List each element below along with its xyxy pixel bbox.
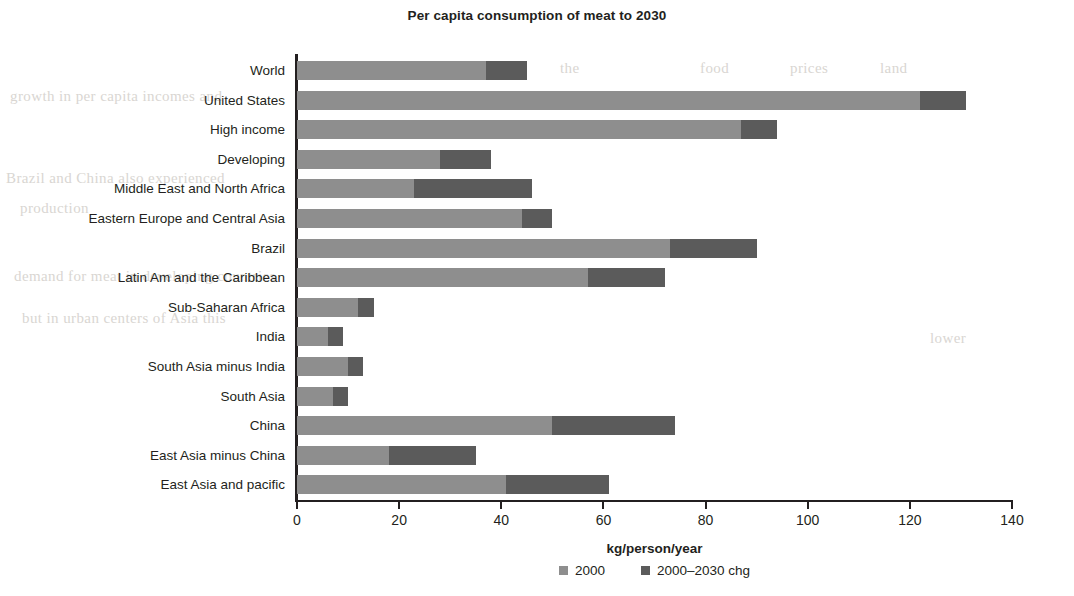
bar-segment-2000	[297, 416, 552, 435]
category-label: Brazil	[0, 239, 285, 258]
bar-segment-chg	[440, 150, 491, 169]
bar-segment-chg	[486, 61, 527, 80]
x-axis-tick-label: 20	[369, 512, 429, 528]
category-label: Eastern Europe and Central Asia	[0, 209, 285, 228]
bar-row: Brazil	[297, 234, 1012, 264]
category-label: High income	[0, 120, 285, 139]
bar-segment-2000	[297, 298, 358, 317]
legend-swatch-2000	[559, 566, 568, 575]
legend-item-2000: 2000	[559, 563, 605, 578]
category-label: South Asia minus India	[0, 357, 285, 376]
category-label: China	[0, 416, 285, 435]
x-axis-tick	[398, 500, 400, 509]
bar-row: Developing	[297, 145, 1012, 175]
bar-segment-chg	[333, 387, 348, 406]
chart-legend: 2000 2000–2030 chg	[297, 563, 1012, 578]
bar-segment-2000	[297, 150, 440, 169]
bar-segment-2000	[297, 209, 522, 228]
legend-label-2000: 2000	[575, 563, 605, 578]
x-axis-tick-label: 40	[471, 512, 531, 528]
bar-segment-chg	[522, 209, 553, 228]
category-label: East Asia minus China	[0, 446, 285, 465]
chart-title: Per capita consumption of meat to 2030	[0, 8, 1074, 23]
category-label: India	[0, 327, 285, 346]
bar-segment-chg	[348, 357, 363, 376]
x-axis-tick-label: 100	[778, 512, 838, 528]
legend-item-chg: 2000–2030 chg	[641, 563, 750, 578]
bar-segment-chg	[552, 416, 675, 435]
bar-segment-2000	[297, 91, 920, 110]
bar-segment-2000	[297, 239, 670, 258]
bar-segment-chg	[670, 239, 757, 258]
category-label: Sub-Saharan Africa	[0, 298, 285, 317]
x-axis-tick-label: 120	[880, 512, 940, 528]
bar-row: Sub-Saharan Africa	[297, 293, 1012, 323]
bar-row: High income	[297, 115, 1012, 145]
x-axis-tick-label: 140	[982, 512, 1042, 528]
bar-segment-chg	[358, 298, 373, 317]
category-label: Latin Am and the Caribbean	[0, 268, 285, 287]
bar-segment-chg	[414, 179, 531, 198]
x-axis-tick-label: 0	[267, 512, 327, 528]
x-axis-tick	[705, 500, 707, 509]
bar-segment-chg	[920, 91, 966, 110]
x-axis-tick-label: 80	[676, 512, 736, 528]
x-axis-tick	[296, 500, 298, 509]
bar-row: South Asia minus India	[297, 352, 1012, 382]
bar-row: Middle East and North Africa	[297, 174, 1012, 204]
bar-segment-2000	[297, 120, 741, 139]
bar-segment-chg	[506, 475, 608, 494]
bar-segment-2000	[297, 475, 506, 494]
x-axis-tick	[500, 500, 502, 509]
bar-row: United States	[297, 86, 1012, 116]
bar-segment-2000	[297, 446, 389, 465]
bar-segment-2000	[297, 268, 588, 287]
bar-segment-2000	[297, 179, 414, 198]
bar-row: India	[297, 322, 1012, 352]
bar-row: Eastern Europe and Central Asia	[297, 204, 1012, 234]
legend-swatch-chg	[641, 566, 650, 575]
bar-segment-chg	[328, 327, 343, 346]
x-axis-tick-label: 60	[573, 512, 633, 528]
bar-chart: Per capita consumption of meat to 2030 W…	[0, 0, 1074, 596]
x-axis-tick	[909, 500, 911, 509]
x-axis-tick	[1011, 500, 1013, 509]
bar-segment-chg	[389, 446, 476, 465]
category-label: South Asia	[0, 387, 285, 406]
bar-segment-2000	[297, 357, 348, 376]
bar-segment-2000	[297, 327, 328, 346]
legend-label-chg: 2000–2030 chg	[657, 563, 750, 578]
bar-row: East Asia minus China	[297, 441, 1012, 471]
bar-row: World	[297, 56, 1012, 86]
x-axis-tick	[602, 500, 604, 509]
bar-row: China	[297, 411, 1012, 441]
bar-segment-chg	[741, 120, 777, 139]
bar-row: East Asia and pacific	[297, 470, 1012, 500]
bar-row: South Asia	[297, 382, 1012, 412]
bar-segment-2000	[297, 61, 486, 80]
x-axis-line	[297, 500, 1013, 502]
x-axis-tick	[807, 500, 809, 509]
category-label: East Asia and pacific	[0, 475, 285, 494]
bar-row: Latin Am and the Caribbean	[297, 263, 1012, 293]
category-label: Middle East and North Africa	[0, 179, 285, 198]
plot-area: WorldUnited StatesHigh incomeDevelopingM…	[297, 56, 1012, 500]
category-label: World	[0, 61, 285, 80]
category-label: United States	[0, 91, 285, 110]
x-axis-title: kg/person/year	[297, 541, 1012, 556]
category-label: Developing	[0, 150, 285, 169]
bar-segment-2000	[297, 387, 333, 406]
bar-segment-chg	[588, 268, 665, 287]
